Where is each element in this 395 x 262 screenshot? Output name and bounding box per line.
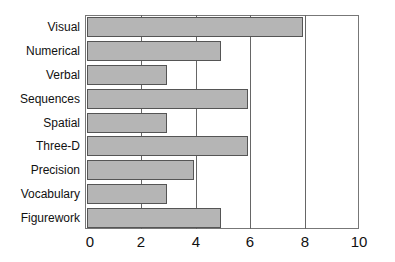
x-tick-label: 8: [290, 233, 320, 250]
bar-figurework: [87, 208, 221, 228]
category-label: Three-D: [0, 139, 80, 153]
category-label: Vocabulary: [0, 187, 80, 201]
bar-three-d: [87, 136, 248, 156]
category-label: Spatial: [0, 116, 80, 130]
category-label: Numerical: [0, 44, 80, 58]
bar-visual: [87, 17, 303, 37]
category-label: Verbal: [0, 68, 80, 82]
category-label: Sequences: [0, 92, 80, 106]
category-label: Precision: [0, 163, 80, 177]
gridline: [305, 15, 306, 229]
x-tick-label: 10: [344, 233, 374, 250]
bar-numerical: [87, 41, 221, 61]
bar-vocabulary: [87, 184, 167, 204]
x-tick-label: 0: [75, 233, 105, 250]
x-tick-label: 6: [235, 233, 265, 250]
category-label: Figurework: [0, 211, 80, 225]
bar-verbal: [87, 65, 167, 85]
x-tick-label: 4: [181, 233, 211, 250]
gridline: [250, 15, 251, 229]
bar-sequences: [87, 89, 248, 109]
x-tick-label: 2: [126, 233, 156, 250]
category-label: Visual: [0, 20, 80, 34]
bar-chart: VisualNumericalVerbalSequencesSpatialThr…: [0, 0, 395, 262]
bar-spatial: [87, 113, 167, 133]
bar-precision: [87, 160, 194, 180]
